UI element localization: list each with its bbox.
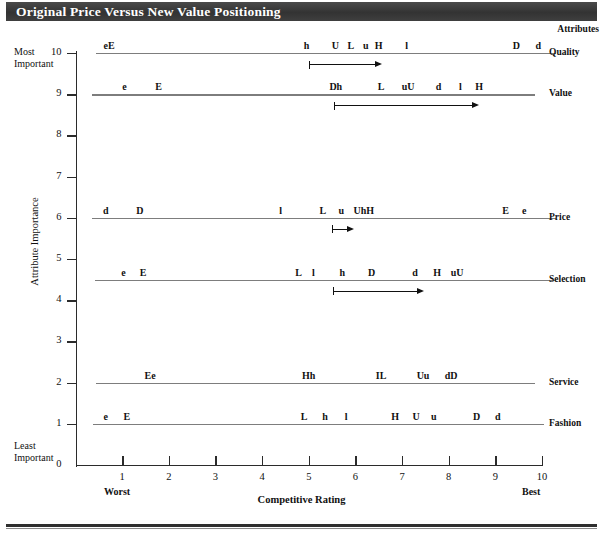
data-point-marker: uU (402, 81, 415, 92)
x-tick-label: 9 (484, 471, 506, 482)
x-tick-label: 8 (438, 471, 460, 482)
x-tick (309, 456, 310, 465)
data-point-marker: L (295, 267, 302, 278)
attribute-row-connector (530, 424, 544, 425)
data-point-marker: E (123, 411, 130, 422)
y-tick-label: 1 (40, 417, 62, 428)
attributes-header-label: Attributes (557, 24, 599, 34)
shift-arrow-shaft (334, 105, 471, 106)
y-tick-label: 7 (40, 170, 62, 181)
data-point-marker: H (433, 267, 441, 278)
data-point-marker: h (340, 267, 346, 278)
data-point-marker: UhH (354, 205, 375, 216)
shift-arrow-head (347, 226, 354, 232)
x-tick-label: 2 (158, 471, 180, 482)
y-tick-label: 10 (40, 46, 62, 57)
x-axis-title: Competitive Rating (0, 494, 603, 505)
shift-arrow-shaft (332, 229, 347, 230)
data-point-marker: E (502, 205, 509, 216)
data-point-marker: Uu (417, 370, 430, 381)
y-tick (67, 218, 76, 219)
y-tick (67, 94, 76, 95)
attribute-row-connector (521, 383, 535, 384)
attribute-row-line (93, 424, 530, 425)
y-tick-label: 2 (40, 376, 62, 387)
attribute-row-line (96, 383, 521, 384)
data-point-marker: h (304, 40, 310, 51)
data-point-marker: uU (451, 267, 464, 278)
data-point-marker: H (391, 411, 399, 422)
data-point-marker: L (319, 205, 326, 216)
data-point-marker: E (155, 81, 162, 92)
y-tick (67, 53, 76, 54)
attribute-name-label: Price (549, 212, 570, 222)
data-point-marker: e (104, 411, 108, 422)
y-tick (67, 177, 76, 178)
data-point-marker: L (301, 411, 308, 422)
y-tick-label: 6 (40, 211, 62, 222)
data-point-marker: d (103, 205, 109, 216)
x-tick-label: 3 (204, 471, 226, 482)
attribute-row-line (92, 218, 542, 219)
y-tick (67, 383, 76, 384)
data-point-marker: U (412, 411, 419, 422)
attribute-name-label: Fashion (549, 418, 581, 428)
x-tick-label: 7 (391, 471, 413, 482)
data-point-marker: d (495, 411, 501, 422)
x-tick-label: 10 (531, 471, 553, 482)
x-axis-spine (76, 465, 544, 466)
data-point-marker: Ee (145, 370, 156, 381)
attribute-name-label: Value (549, 88, 572, 98)
x-tick (449, 456, 450, 465)
y-axis-title: Attribute Importance (29, 162, 40, 322)
x-tick-label: 6 (344, 471, 366, 482)
data-point-marker: IL (376, 370, 387, 381)
data-point-marker: d (535, 40, 541, 51)
data-point-marker: u (363, 40, 369, 51)
shift-arrow-head (472, 102, 479, 108)
x-tick-label: 5 (298, 471, 320, 482)
y-tick (67, 424, 76, 425)
data-point-marker: d (436, 81, 442, 92)
y-tick-label: 3 (40, 334, 62, 345)
y-tick (67, 341, 76, 342)
shift-arrow-head (375, 61, 382, 67)
y-tick (67, 300, 76, 301)
data-point-marker: u (339, 205, 345, 216)
x-tick (355, 456, 356, 465)
x-tick-label: 4 (251, 471, 273, 482)
footer-rule (6, 524, 597, 527)
data-point-marker: H (375, 40, 383, 51)
data-point-marker: l (345, 411, 348, 422)
data-point-marker: D (473, 411, 480, 422)
shift-arrow-head (417, 288, 424, 294)
y-axis-spine (76, 51, 77, 467)
attribute-row-line (96, 53, 542, 54)
x-tick (122, 456, 123, 465)
data-point-marker: e (121, 267, 125, 278)
data-point-marker: u (431, 411, 437, 422)
y-axis-bottom-note-line1: Least (14, 440, 53, 452)
y-axis-top-note-line2: Important (14, 58, 53, 70)
x-tick (215, 456, 216, 465)
data-point-marker: l (312, 267, 315, 278)
footer-rule-secondary (6, 528, 597, 529)
data-point-marker: dD (445, 370, 458, 381)
attribute-row-line (92, 94, 521, 95)
shift-arrow-shaft (309, 64, 375, 65)
attribute-name-label: Selection (549, 274, 585, 284)
data-point-marker: D (513, 40, 520, 51)
attribute-row-connector (521, 94, 535, 95)
y-tick (67, 259, 76, 260)
x-tick (262, 456, 263, 465)
data-point-marker: Dh (329, 81, 342, 92)
x-tick (495, 456, 496, 465)
attribute-row-line (95, 280, 542, 281)
attribute-name-label: Service (549, 377, 579, 387)
data-point-marker: d (412, 267, 418, 278)
data-point-marker: D (136, 205, 143, 216)
x-tick (542, 456, 543, 465)
data-point-marker: l (279, 205, 282, 216)
data-point-marker: D (368, 267, 375, 278)
y-tick (67, 135, 76, 136)
